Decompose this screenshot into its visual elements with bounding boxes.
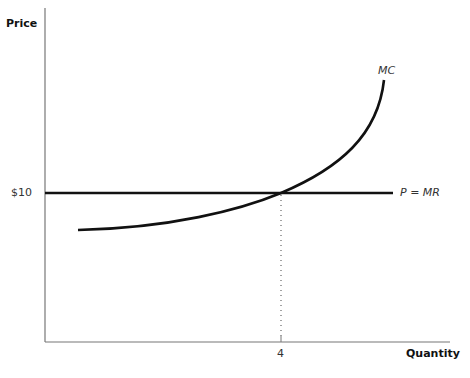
y-tick-label: $10 [11,186,32,199]
x-tick-label: 4 [277,347,284,360]
mr-label: P = MR [400,186,440,199]
x-axis-label: Quantity [406,347,460,360]
mc-curve [78,80,384,230]
y-axis-label: Price [6,17,37,30]
mc-label: MC [378,64,395,77]
